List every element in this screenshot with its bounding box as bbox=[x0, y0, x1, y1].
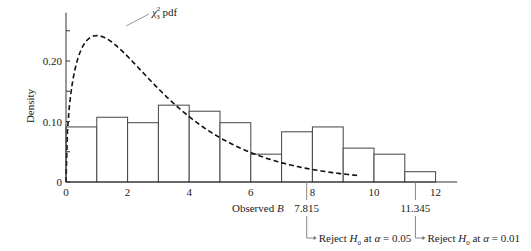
x-tick-label: 0 bbox=[63, 186, 69, 198]
histogram-bar bbox=[220, 123, 251, 182]
curve-label: χ23 pdf bbox=[126, 5, 178, 26]
histogram-bars bbox=[66, 105, 436, 182]
y-tick-label: 0.20 bbox=[43, 55, 63, 67]
critical-value-annotation: 11.345Reject H0 at α = 0.01 bbox=[401, 182, 520, 247]
critical-values: 7.815Reject H0 at α = 0.0511.345Reject H… bbox=[294, 182, 520, 247]
histogram-bar bbox=[158, 105, 189, 182]
critical-value-label: 7.815 bbox=[294, 202, 319, 214]
histogram-bar bbox=[128, 123, 159, 182]
x-tick-label: 2 bbox=[125, 186, 131, 198]
reject-arrow bbox=[307, 216, 314, 238]
histogram-bar bbox=[97, 117, 128, 182]
x-tick-label: 10 bbox=[369, 186, 381, 198]
y-tick-label: 0.10 bbox=[43, 116, 63, 128]
histogram-bar bbox=[282, 132, 313, 182]
reject-note: Reject H0 at α = 0.05 bbox=[319, 232, 412, 247]
x-ticks: 024681012 bbox=[63, 186, 441, 198]
histogram-bar bbox=[405, 172, 436, 182]
reject-arrow bbox=[415, 216, 422, 238]
x-tick-label: 12 bbox=[430, 186, 441, 198]
arrowhead-icon bbox=[422, 236, 425, 240]
histogram-bar bbox=[343, 148, 374, 182]
histogram-bar bbox=[66, 127, 97, 182]
histogram-bar bbox=[189, 111, 220, 182]
curve-label-leader bbox=[126, 14, 149, 26]
x-axis-title: Observed B bbox=[232, 202, 284, 214]
y-tick-label: 0 bbox=[57, 176, 63, 188]
curve-label-text: χ23 pdf bbox=[151, 5, 178, 21]
reject-note: Reject H0 at α = 0.01 bbox=[427, 232, 520, 247]
chart: 00.100.20 024681012 Density Observed B χ… bbox=[0, 0, 531, 251]
y-axis-title: Density bbox=[24, 88, 36, 123]
histogram-bar bbox=[374, 154, 405, 182]
critical-value-label: 11.345 bbox=[401, 202, 431, 214]
arrowhead-icon bbox=[314, 236, 317, 240]
x-tick-label: 6 bbox=[248, 186, 254, 198]
x-tick-label: 8 bbox=[310, 186, 316, 198]
x-tick-label: 4 bbox=[186, 186, 192, 198]
